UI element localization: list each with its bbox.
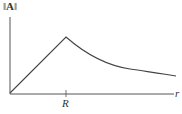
x-axis-label: r <box>175 88 179 99</box>
tick-label-r: R <box>62 98 69 109</box>
field-magnitude-plot: ‖A‖ r R <box>0 0 182 114</box>
y-axis-label: ‖A‖ <box>3 1 17 12</box>
curve <box>10 37 176 93</box>
plot-canvas <box>0 0 182 114</box>
